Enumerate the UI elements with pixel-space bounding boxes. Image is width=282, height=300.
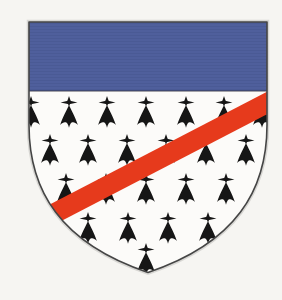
coat-of-arms-image: [0, 0, 282, 300]
chief-band: [29, 22, 267, 91]
coat-of-arms-svg: [0, 0, 282, 300]
